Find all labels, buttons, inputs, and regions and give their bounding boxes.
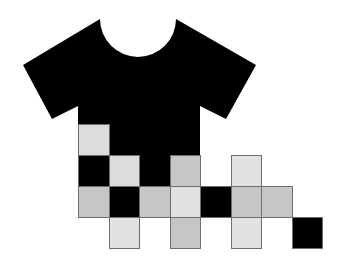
pixel-cell xyxy=(170,186,201,218)
pixel-cell xyxy=(170,217,201,249)
pixel-cell xyxy=(109,217,140,249)
pixel-cell xyxy=(109,186,140,218)
pixel-cell xyxy=(78,124,110,156)
pixel-cell xyxy=(200,186,232,218)
pixel-cell xyxy=(292,217,323,249)
pixel-cell xyxy=(231,217,262,249)
pixel-cell xyxy=(231,155,262,187)
pixel-cell xyxy=(231,186,262,218)
pixel-cell xyxy=(139,186,171,218)
tshirt-pixel-graphic xyxy=(0,0,342,267)
pixel-cell xyxy=(78,186,110,218)
pixel-cell xyxy=(109,155,140,187)
pixel-cell xyxy=(261,186,293,218)
pixel-cell xyxy=(78,155,110,187)
pixel-cell xyxy=(170,155,201,187)
